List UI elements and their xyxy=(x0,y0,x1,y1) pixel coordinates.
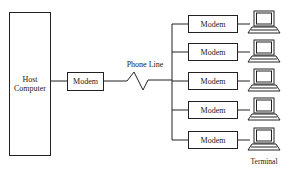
modem-label: Modem xyxy=(73,77,98,86)
remote-modem-box: Modem xyxy=(188,43,238,61)
network-diagram: Host Computer Modem Phone Line Modem Mod… xyxy=(0,0,285,175)
host-computer-box: Host Computer xyxy=(9,12,51,156)
laptop-terminal-icon xyxy=(248,128,280,150)
modem-label: Modem xyxy=(201,106,226,115)
phone-line-label: Phone Line xyxy=(120,60,170,69)
laptop-terminal-icon xyxy=(248,11,280,33)
modem-label: Modem xyxy=(201,48,226,57)
terminal-caption: Terminal xyxy=(244,157,284,166)
remote-modem-box: Modem xyxy=(188,15,238,33)
modem-label: Modem xyxy=(201,77,226,86)
remote-modem-box: Modem xyxy=(188,101,238,119)
laptop-terminal-icon xyxy=(248,69,280,91)
host-label-line2: Computer xyxy=(14,84,46,93)
laptop-terminal-icon xyxy=(248,40,280,62)
host-label-line1: Host xyxy=(22,75,37,84)
remote-modem-box: Modem xyxy=(188,131,238,149)
remote-modem-box: Modem xyxy=(188,72,238,90)
modem-label: Modem xyxy=(201,136,226,145)
modem-label: Modem xyxy=(201,20,226,29)
phone-line-zigzag-icon xyxy=(127,72,148,90)
laptop-terminal-icon xyxy=(248,98,280,120)
host-modem-box: Modem xyxy=(67,72,104,91)
